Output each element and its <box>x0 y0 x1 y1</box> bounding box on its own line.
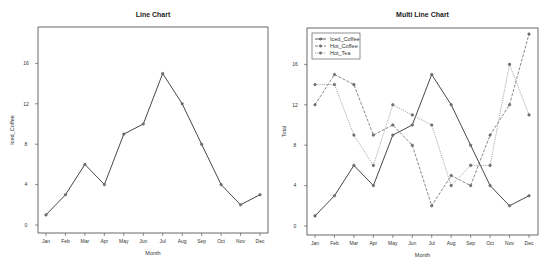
series-line <box>315 75 529 216</box>
data-point-marker <box>489 164 492 167</box>
data-point-marker <box>469 184 472 187</box>
data-point-marker <box>372 184 375 187</box>
data-point-marker <box>508 104 511 107</box>
data-point-marker <box>392 104 395 107</box>
y-tick-label: 4 <box>25 181 28 187</box>
y-tick-label: 12 <box>23 101 29 107</box>
x-tick-label: Nov <box>505 240 514 246</box>
data-point-marker <box>469 144 472 147</box>
x-tick-label: Mar <box>81 238 90 244</box>
data-point-marker <box>372 164 375 167</box>
data-point-marker <box>372 134 375 137</box>
x-tick-label: Jan <box>42 238 50 244</box>
y-tick-label: 8 <box>25 141 28 147</box>
data-point-marker <box>103 183 106 186</box>
y-axis-label: Iced_Coffee <box>9 115 15 145</box>
legend-entry-label: Hot_Coffee <box>330 43 358 49</box>
data-point-marker <box>333 73 336 76</box>
data-point-marker <box>314 104 317 107</box>
y-tick-label: 0 <box>294 223 297 229</box>
chart-1: Line Chart0481216JanFebMarAprMayJunJulAu… <box>9 11 268 256</box>
legend-marker <box>319 52 321 54</box>
data-point-marker <box>411 124 414 127</box>
data-point-marker <box>333 83 336 86</box>
data-point-marker <box>181 103 184 106</box>
y-tick-label: 12 <box>292 102 298 108</box>
data-point-marker <box>200 143 203 146</box>
x-tick-label: Apr <box>100 238 108 244</box>
x-axis-label: Month <box>145 250 160 256</box>
x-tick-label: Jun <box>408 240 416 246</box>
data-point-marker <box>489 184 492 187</box>
series-line <box>315 34 529 206</box>
x-tick-label: Apr <box>369 240 377 246</box>
data-point-marker <box>508 63 511 66</box>
data-point-marker <box>411 144 414 147</box>
data-point-marker <box>528 33 531 36</box>
plot-frame <box>38 27 268 233</box>
data-point-marker <box>528 194 531 197</box>
x-tick-label: Jun <box>139 238 147 244</box>
series-line <box>315 64 529 185</box>
data-point-marker <box>508 205 511 208</box>
data-point-marker <box>123 133 126 136</box>
series-iced-coffee <box>314 73 531 217</box>
chart-title: Line Chart <box>136 11 171 18</box>
data-point-marker <box>45 214 48 217</box>
x-tick-label: Sep <box>466 240 475 246</box>
data-point-marker <box>353 83 356 86</box>
data-point-marker <box>84 163 87 166</box>
data-point-marker <box>392 124 395 127</box>
data-point-marker <box>314 83 317 86</box>
series-iced-coffee <box>45 72 262 216</box>
data-point-marker <box>161 72 164 75</box>
data-point-marker <box>430 124 433 127</box>
x-tick-label: Mar <box>350 240 359 246</box>
data-point-marker <box>142 123 145 126</box>
data-point-marker <box>450 104 453 107</box>
data-point-marker <box>64 193 67 196</box>
y-tick-label: 0 <box>25 222 28 228</box>
x-tick-label: Oct <box>217 238 225 244</box>
y-tick-label: 16 <box>23 60 29 66</box>
data-point-marker <box>353 164 356 167</box>
y-tick-label: 16 <box>292 61 298 67</box>
x-tick-label: Jul <box>429 240 435 246</box>
legend-marker <box>319 38 321 40</box>
data-point-marker <box>430 73 433 76</box>
data-point-marker <box>392 134 395 137</box>
x-tick-label: Dec <box>256 238 265 244</box>
x-tick-label: Aug <box>178 238 187 244</box>
data-point-marker <box>314 215 317 218</box>
data-point-marker <box>220 183 223 186</box>
data-point-marker <box>259 193 262 196</box>
data-point-marker <box>450 174 453 177</box>
x-axis-label: Month <box>415 252 430 258</box>
legend-marker <box>319 45 321 47</box>
y-axis-label: Total <box>281 126 287 138</box>
data-point-marker <box>469 164 472 167</box>
data-point-marker <box>430 205 433 208</box>
legend-entry-label: Iced_Coffee <box>330 36 360 42</box>
legend: Iced_CoffeeHot_CoffeeHot_Tea <box>312 33 360 59</box>
series-hot-tea <box>314 63 531 187</box>
data-point-marker <box>239 204 242 207</box>
x-tick-label: Dec <box>525 240 534 246</box>
chart-title: Multi Line Chart <box>396 11 450 18</box>
x-tick-label: May <box>119 238 129 244</box>
y-tick-label: 8 <box>294 142 297 148</box>
data-point-marker <box>411 114 414 117</box>
x-tick-label: Sep <box>197 238 206 244</box>
y-tick-label: 4 <box>294 182 297 188</box>
x-tick-label: Nov <box>236 238 245 244</box>
charts-svg: Line Chart0481216JanFebMarAprMayJunJulAu… <box>0 0 554 268</box>
data-point-marker <box>489 134 492 137</box>
data-point-marker <box>333 194 336 197</box>
x-tick-label: Jul <box>160 238 166 244</box>
x-tick-label: Aug <box>447 240 456 246</box>
x-tick-label: Jan <box>311 240 319 246</box>
chart-2: Multi Line Chart0481216JanFebMarAprMayJu… <box>281 11 538 258</box>
x-tick-label: Oct <box>486 240 494 246</box>
data-point-marker <box>450 184 453 187</box>
chart-canvas: Line Chart0481216JanFebMarAprMayJunJulAu… <box>0 0 554 268</box>
